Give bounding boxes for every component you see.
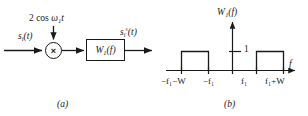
tick-label-f1-plus-w: f₁+W bbox=[265, 76, 285, 86]
filter-block-label: W1(f) bbox=[95, 45, 115, 56]
output-signal-argument: (t) bbox=[128, 27, 137, 37]
carrier-omega: ω bbox=[51, 13, 58, 23]
tick-label-neg-f1-minus-w: −f₁−W bbox=[161, 76, 186, 86]
output-signal-label: si°(t) bbox=[120, 28, 137, 38]
y-axis-label: W₁(f) bbox=[217, 8, 237, 18]
caption-panel-b: (b) bbox=[224, 99, 235, 109]
negative-frequency-band bbox=[182, 52, 209, 71]
carrier-tail: t bbox=[61, 13, 64, 23]
tick-label-f1: f₁ bbox=[241, 76, 247, 86]
input-signal-argument: (t) bbox=[24, 31, 33, 41]
caption-panel-a: (a) bbox=[57, 99, 68, 109]
figure-container: 2 cos ω1t si(t) × W1(f) si°(t) (a) W₁(f)… bbox=[0, 0, 308, 116]
filter-block: W1(f) bbox=[86, 39, 125, 61]
carrier-prefix: 2 cos bbox=[29, 13, 51, 23]
x-axis-label: f bbox=[289, 60, 292, 70]
carrier-label: 2 cos ω1t bbox=[29, 14, 64, 24]
input-signal-label: si(t) bbox=[18, 32, 32, 42]
multiplier-node: × bbox=[45, 42, 62, 59]
tick-label-neg-f1: −f₁ bbox=[203, 76, 214, 86]
multiply-icon: × bbox=[46, 43, 61, 58]
amplitude-label: 1 bbox=[244, 45, 249, 55]
filter-argument: (f) bbox=[107, 45, 116, 55]
positive-frequency-band bbox=[257, 52, 284, 71]
